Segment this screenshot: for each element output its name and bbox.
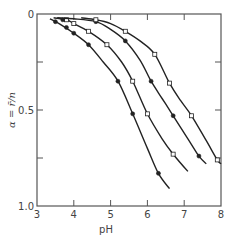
x-tick-label: 8	[218, 209, 224, 220]
curve-line	[54, 18, 188, 172]
x-tick-label: 3	[34, 209, 40, 220]
data-point-filled	[149, 79, 153, 83]
x-tick-label: 5	[107, 209, 113, 220]
x-tick-label: 6	[144, 209, 150, 220]
series-curve-1	[50, 19, 170, 189]
plot-border	[37, 14, 221, 206]
data-point-filled	[197, 154, 201, 158]
data-point-open	[72, 22, 76, 26]
y-axis-title: α = r̄/n	[6, 92, 17, 128]
data-point-open	[123, 29, 127, 33]
data-point-filled	[116, 79, 120, 83]
curve-line	[50, 19, 170, 189]
data-point-filled	[72, 31, 76, 35]
data-point-filled	[156, 171, 160, 175]
plot-frame	[37, 14, 221, 206]
x-tick-label: 4	[71, 209, 77, 220]
data-point-open	[145, 112, 149, 116]
data-point-open	[167, 81, 171, 85]
data-point-filled	[87, 43, 91, 47]
series-curve-2	[54, 18, 188, 172]
curve-line	[81, 18, 221, 164]
data-point-open	[131, 79, 135, 83]
chart: 34567800.51.0 pH α = r̄/n	[0, 0, 232, 240]
data-series	[50, 18, 221, 189]
data-point-open	[105, 43, 109, 47]
x-tick-label: 7	[181, 209, 187, 220]
y-tick-label: 1.0	[18, 201, 34, 212]
series-curve-4	[81, 18, 221, 164]
axis-ticks	[37, 14, 221, 206]
data-point-open	[171, 152, 175, 156]
data-point-open	[215, 158, 219, 162]
x-axis-title: pH	[99, 224, 113, 235]
data-point-filled	[53, 20, 57, 24]
data-point-filled	[171, 114, 175, 118]
curve-line	[57, 18, 206, 164]
y-tick-label: 0	[28, 9, 34, 20]
data-point-filled	[64, 25, 68, 29]
data-point-filled	[123, 39, 127, 43]
y-tick-label: 0.5	[18, 105, 34, 116]
data-point-open	[94, 18, 98, 22]
data-point-open	[190, 114, 194, 118]
series-curve-3	[57, 18, 206, 164]
data-point-open	[87, 29, 91, 33]
data-point-open	[153, 52, 157, 56]
data-point-filled	[61, 18, 65, 22]
data-point-filled	[131, 112, 135, 116]
